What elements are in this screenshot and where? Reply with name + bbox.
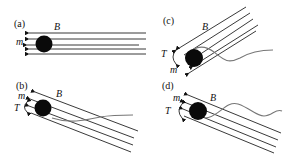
panel-b-moment-label: m [18,90,25,101]
magnetic-microswimmer-diagram: (a) B m (c) B T m (b) B m T [0,0,293,164]
panel-d-label: (d) [162,80,174,92]
panel-a-moment-label: m [16,36,23,47]
panel-c-magnetic-ball [185,49,203,67]
panel-b-magnetic-ball [35,100,52,117]
panel-a-field-label: B [54,21,60,32]
panel-d-flagellum-tail [205,103,282,118]
panel-c-torque-arrow-icon [173,50,176,64]
panel-b-flagellum-tail [52,115,133,121]
panel-d-moment-label: m [173,92,180,103]
panel-a-magnetic-ball [36,36,53,53]
panel-c: (c) B T m [161,7,273,75]
panel-d-torque-label: T [165,105,172,116]
panel-c-label: (c) [163,15,174,27]
panel-d-field-label: B [210,92,216,103]
panel-a: (a) B m [14,18,146,54]
panel-a-label: (a) [14,18,25,30]
panel-c-torque-label: T [161,48,168,59]
panel-c-moment-label: m [170,64,177,75]
panel-b-torque-arrow-icon [25,102,28,112]
panel-b-torque-label: T [14,102,21,113]
panel-d: (d) B m T [162,80,282,153]
panel-d-torque-arrow-icon [179,104,182,118]
panel-d-magnetic-ball [189,102,207,120]
panel-b-field-label: B [56,88,62,99]
panel-b: (b) B m T [14,80,138,152]
